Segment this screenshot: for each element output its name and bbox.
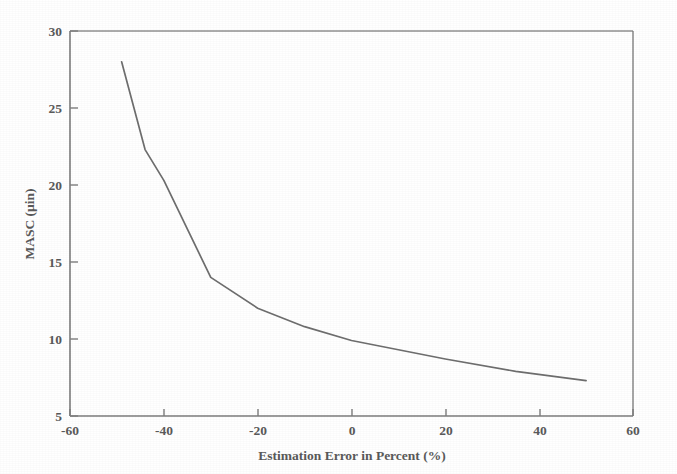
chart-figure: 30 25 20 15 10 5 -60 -40 -20 0 20 40 60 … (0, 0, 677, 474)
x-axis-title: Estimation Error in Percent (%) (258, 448, 445, 463)
x-ticklabel: 0 (349, 423, 356, 438)
y-ticklabel: 5 (55, 409, 62, 424)
x-ticklabel: 40 (533, 423, 547, 438)
x-ticklabel: -60 (61, 423, 79, 438)
y-axis-ticks (70, 31, 78, 416)
data-series-line (122, 62, 586, 381)
y-ticklabel: 30 (49, 24, 63, 39)
y-axis-tick-labels: 30 25 20 15 10 5 (49, 24, 63, 424)
y-ticklabel: 25 (49, 101, 63, 116)
x-axis-ticks (70, 409, 633, 416)
x-ticklabel: 20 (439, 423, 453, 438)
x-ticklabel: -20 (249, 423, 267, 438)
chart-canvas: 30 25 20 15 10 5 -60 -40 -20 0 20 40 60 … (0, 0, 677, 474)
y-axis-title: MASC (µin) (22, 188, 37, 259)
x-ticklabel: 60 (626, 423, 640, 438)
plot-axes (70, 31, 633, 416)
x-ticklabel: -40 (155, 423, 173, 438)
y-ticklabel: 15 (49, 255, 63, 270)
x-axis-tick-labels: -60 -40 -20 0 20 40 60 (61, 423, 640, 438)
y-ticklabel: 20 (49, 178, 63, 193)
y-ticklabel: 10 (49, 332, 63, 347)
